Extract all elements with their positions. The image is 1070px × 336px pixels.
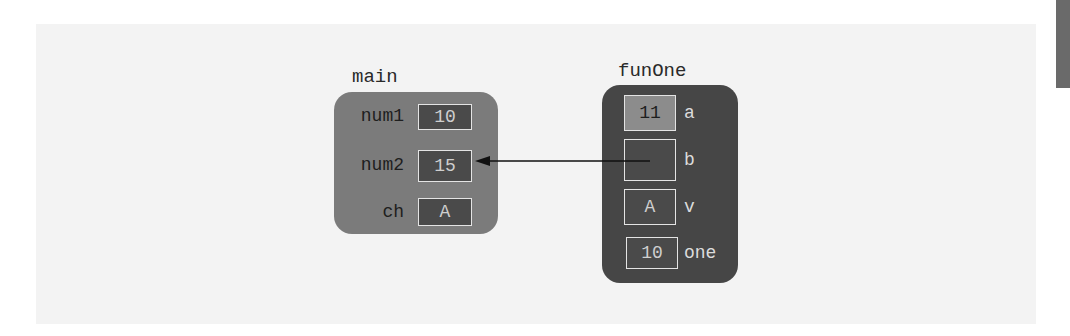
var-label-ch: ch [334,198,404,226]
var-cell-num1: 10 [418,104,472,130]
var-cell-one: 10 [626,237,678,269]
frame-title-main: main [352,66,398,88]
var-label-num1: num1 [334,102,404,130]
diagram-background [36,24,1036,324]
page-side-tab [1056,0,1070,88]
var-cell-num2: 15 [418,150,472,182]
frame-main: num1 10 num2 15 ch A [334,92,498,234]
var-label-a: a [684,99,695,127]
frame-funone: 11 a b A v 10 one [602,85,738,283]
var-label-one: one [684,239,716,267]
var-label-v: v [684,193,695,221]
frame-title-funone: funOne [618,60,686,82]
var-cell-a: 11 [624,95,676,131]
var-cell-ch: A [418,198,472,226]
var-label-num2: num2 [334,151,404,179]
var-cell-b [624,139,676,181]
var-label-b: b [684,146,695,174]
var-cell-v: A [624,189,676,225]
